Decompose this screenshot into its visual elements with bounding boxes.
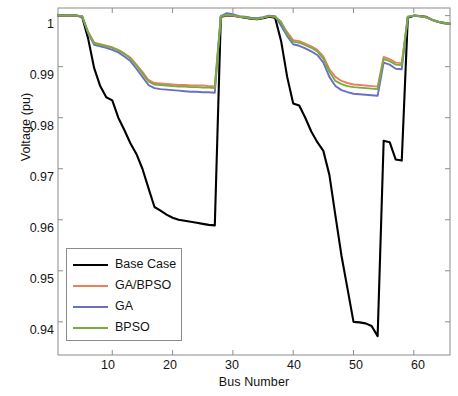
legend-swatch-base-case: [73, 264, 108, 266]
legend-label-ga-bpso: GA/BPSO: [115, 279, 171, 292]
legend-item-ga-bpso: GA/BPSO: [67, 275, 181, 296]
legend: Base Case GA/BPSO GA BPSO: [66, 248, 182, 341]
legend-item-bpso: BPSO: [67, 317, 181, 338]
series-line: [58, 13, 450, 96]
legend-label-ga: GA: [115, 300, 133, 313]
voltage-profile-chart: Voltage (pu) 1 0.99 0.98 0.97 0.96 0.95 …: [0, 0, 458, 396]
legend-swatch-ga-bpso: [73, 285, 108, 287]
legend-swatch-bpso: [73, 327, 108, 329]
legend-label-bpso: BPSO: [115, 321, 150, 334]
legend-swatch-ga: [73, 306, 108, 308]
legend-item-ga: GA: [67, 296, 181, 317]
legend-item-base-case: Base Case: [67, 254, 181, 275]
legend-label-base-case: Base Case: [115, 258, 176, 271]
